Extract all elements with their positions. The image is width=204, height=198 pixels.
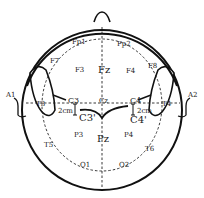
label-c3: C3 [68,96,79,105]
c3-lead [53,95,66,100]
label-c4-prime: C4' [130,114,147,125]
label-a1: A1 [5,91,16,99]
label-fp2: Fp2 [117,40,131,48]
label-f4: F4 [126,67,136,75]
label-t6: T6 [145,145,155,153]
label-o2: O2 [119,161,129,169]
label-t5: T5 [44,141,53,149]
label-f7: F7 [50,57,59,65]
label-p3: P3 [74,131,83,139]
label-t3: T3 [36,100,45,108]
label-pz: Pz [97,133,109,144]
label-t4: T4 [162,100,172,108]
label-p4: P4 [124,131,134,139]
label-a2: A2 [187,91,198,99]
label-fp1: Fp1 [72,38,86,46]
label-cz: Cz [99,97,108,105]
nose-shape [94,12,110,22]
label-f8: F8 [148,62,157,70]
eeg-electrode-diagram: Fp1 Fp2 F7 F3 Fz F4 F8 A1 A2 T3 C3 Cz C4… [0,0,204,198]
label-c4: C4 [130,96,141,105]
right-ear [149,67,174,116]
label-fz: Fz [98,64,110,75]
label-o1: O1 [80,161,90,169]
label-f3: F3 [75,66,84,74]
label-c3-prime: C3' [79,112,96,123]
a1-lead [14,98,26,117]
label-2cm-left: 2cm [58,107,73,115]
a2-lead [178,98,190,117]
